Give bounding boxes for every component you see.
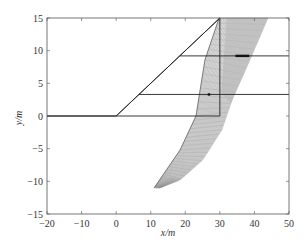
x-tick-label: 0	[114, 218, 119, 229]
y-tick-label: 0	[38, 111, 43, 122]
x-tick-label: −10	[74, 218, 90, 229]
y-tick-label: −15	[27, 209, 43, 220]
y-tick-label: 5	[38, 78, 43, 89]
x-tick-label: 20	[180, 218, 190, 229]
x-axis: −20−1001020304050	[39, 18, 294, 229]
y-tick-label: 10	[33, 45, 43, 56]
y-tick-label: −10	[27, 176, 43, 187]
ground-surface	[47, 18, 220, 116]
y-tick-label: −5	[32, 143, 43, 154]
x-tick-label: 50	[284, 218, 294, 229]
x-tick-label: 10	[146, 218, 156, 229]
slip-surface-mesh	[154, 18, 268, 188]
y-tick-label: 15	[33, 13, 43, 24]
x-axis-label: x/m	[160, 227, 175, 238]
chart: −20−1001020304050 −15−10−5051015 x/m y/m	[0, 0, 307, 250]
mesh-dense-shade	[222, 18, 268, 103]
x-tick-label: −20	[39, 218, 55, 229]
x-tick-label: 30	[215, 218, 225, 229]
x-tick-label: 40	[249, 218, 259, 229]
y-axis-label: y/m	[13, 111, 24, 126]
